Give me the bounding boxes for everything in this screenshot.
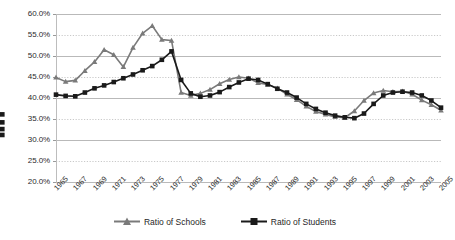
data-point-marker [275,86,280,91]
y-tick-label: 50.0% [6,51,50,60]
legend-label-students: Ratio of Students [271,217,336,227]
data-point-marker [0,133,5,138]
legend-item-schools[interactable]: Ratio of Schools [113,216,206,227]
data-point-marker [400,89,405,94]
gridlines [53,15,441,183]
data-point-marker [391,90,396,95]
data-point-marker [419,93,424,98]
data-point-marker [208,93,213,98]
data-point-marker [227,85,232,90]
data-point-marker [92,86,97,91]
data-point-marker [333,113,338,118]
data-point-marker [101,47,107,52]
data-point-marker [371,102,376,107]
data-point-marker [54,92,59,97]
data-point-marker [352,116,357,121]
data-point-marker [217,90,222,95]
data-point-marker [439,105,444,110]
series-line [56,26,441,118]
y-tick-label: 55.0% [6,30,50,39]
data-point-marker [140,68,145,73]
data-point-marker [178,90,184,95]
data-point-marker [63,94,68,99]
y-tick-label: 45.0% [6,72,50,81]
y-tick-label: 35.0% [6,114,50,123]
y-tick-label: 40.0% [6,93,50,102]
series-layer [0,23,444,137]
data-point-marker [0,127,5,132]
data-point-marker [256,78,261,83]
data-point-marker [362,111,367,116]
data-point-marker [102,83,107,88]
data-point-marker [73,94,78,99]
data-point-marker [188,91,193,96]
data-point-marker [323,110,328,115]
data-point-marker [246,76,251,81]
y-tick-label: 20.0% [6,177,50,186]
chart-legend: Ratio of Schools Ratio of Students [0,216,449,227]
data-point-marker [111,80,116,85]
data-point-marker [304,102,309,107]
legend-label-schools: Ratio of Schools [144,217,206,227]
data-point-marker [198,94,203,99]
data-point-marker [294,95,299,100]
data-point-marker [169,49,174,54]
data-point-marker [179,78,184,83]
y-tick-label: 30.0% [6,135,50,144]
data-point-marker [429,98,434,103]
y-tick-label: 25.0% [6,156,50,165]
data-point-marker [410,90,415,95]
series-line [56,51,441,118]
data-point-marker [121,76,126,81]
legend-item-students[interactable]: Ratio of Students [240,216,336,227]
data-point-marker [285,90,290,95]
legend-marker-square-icon [240,216,268,227]
data-point-marker [160,57,165,62]
legend-marker-triangle-icon [113,216,141,227]
data-point-marker [83,90,88,95]
data-point-marker [150,64,155,69]
data-point-marker [131,72,136,77]
data-point-marker [314,107,319,112]
data-point-marker [237,80,242,85]
data-point-marker [0,120,5,125]
y-tick-label: 60.0% [6,9,50,18]
data-point-marker [265,82,270,87]
data-point-marker [342,115,347,120]
data-point-marker [381,93,386,98]
data-point-marker [149,23,155,28]
data-point-marker [0,112,5,117]
